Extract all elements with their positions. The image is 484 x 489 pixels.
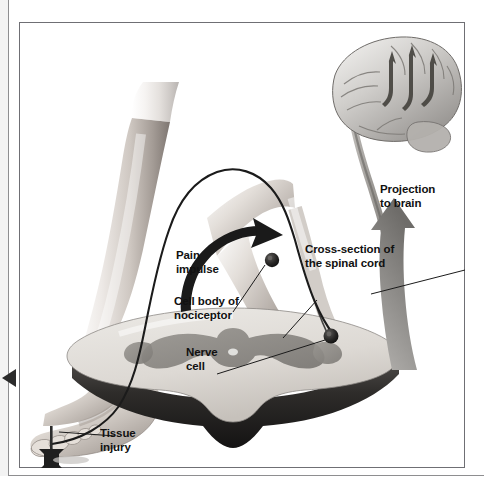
label-nerve-cell: Nerve cell: [186, 346, 217, 373]
nociceptor-cell-body: [265, 253, 279, 267]
outer-frame-left-rule: [8, 0, 9, 476]
pain-pathway-illustration: [19, 22, 465, 468]
label-pain-impulse: Pain impulse: [176, 249, 219, 276]
nerve-terminal-in-cord: [324, 329, 339, 344]
figure-page: Pain impulse Cell body of nociceptor Ner…: [0, 0, 484, 489]
label-tissue-injury: Tissue injury: [100, 427, 136, 454]
label-cross-section-of-the-spinal-cord: Cross-section of the spinal cord: [305, 243, 394, 270]
label-cell-body-of-nociceptor: Cell body of nociceptor: [174, 295, 239, 322]
label-projection-to-brain: Projection to brain: [380, 183, 435, 210]
page-edge-triangle-marker: [2, 369, 16, 387]
page-edge-shade: [0, 0, 8, 476]
outer-frame-bottom-rule: [8, 475, 484, 476]
